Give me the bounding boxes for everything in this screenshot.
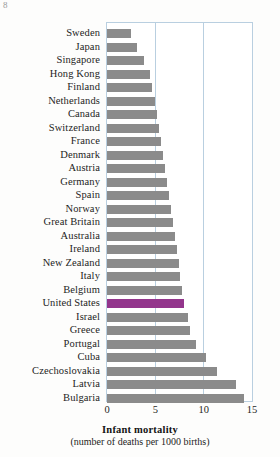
category-label: Denmark	[60, 148, 100, 162]
x-tick-label: 0	[104, 404, 109, 415]
category-label: Australia	[61, 229, 100, 243]
x-tick-label: 15	[247, 404, 258, 415]
bar	[107, 232, 175, 241]
bar	[107, 164, 165, 173]
bar	[107, 124, 159, 133]
bar	[107, 205, 171, 214]
bar	[107, 353, 206, 362]
category-label: Norway	[66, 202, 100, 216]
category-label: Great Britain	[44, 215, 100, 229]
bar	[107, 178, 167, 187]
category-label: Latvia	[73, 377, 100, 391]
axis-caption: Infant mortality (number of deaths per 1…	[0, 424, 280, 447]
axis-title: Infant mortality	[0, 424, 280, 435]
bar	[107, 137, 161, 146]
category-label: Sweden	[66, 26, 100, 40]
page-corner-mark: 8	[3, 0, 8, 10]
bar	[107, 272, 180, 281]
bar	[107, 340, 196, 349]
bar	[107, 394, 244, 403]
category-label: Spain	[76, 188, 100, 202]
category-label: Singapore	[57, 53, 100, 67]
category-label: Italy	[80, 269, 100, 283]
bar	[107, 43, 137, 52]
bar	[107, 299, 184, 308]
category-label: United States	[42, 296, 100, 310]
gridline-10	[203, 23, 204, 401]
category-label: Switzerland	[49, 121, 100, 135]
bar	[107, 97, 155, 106]
bar	[107, 83, 152, 92]
category-label: Cuba	[77, 350, 100, 364]
bar	[107, 326, 190, 335]
bar	[107, 313, 188, 322]
category-label: Germany	[60, 175, 100, 189]
plot-block: SwedenJapanSingaporeHong KongFinlandNeth…	[0, 22, 280, 402]
category-label: Czechoslovakia	[32, 364, 100, 378]
bar	[107, 367, 217, 376]
category-label: Japan	[76, 40, 100, 54]
x-tick-label: 5	[153, 404, 158, 415]
category-label: Finland	[67, 80, 100, 94]
axis-subtitle: (number of deaths per 1000 births)	[0, 436, 280, 447]
x-tick-label: 10	[198, 404, 209, 415]
bar	[107, 56, 144, 65]
bar	[107, 29, 131, 38]
bar	[107, 110, 157, 119]
bar	[107, 245, 177, 254]
category-label: Portugal	[64, 337, 100, 351]
bar	[107, 151, 163, 160]
category-label: Ireland	[70, 242, 100, 256]
category-label: New Zealand	[43, 256, 100, 270]
bar	[107, 286, 182, 295]
category-label: Austria	[68, 161, 100, 175]
category-label: Belgium	[63, 283, 100, 297]
bar	[107, 70, 150, 79]
category-label: Israel	[76, 310, 100, 324]
category-label: Hong Kong	[50, 67, 100, 81]
bar	[107, 259, 179, 268]
category-label: France	[71, 134, 100, 148]
category-label: Netherlands	[48, 94, 100, 108]
x-axis-tick-labels: 051015	[0, 404, 280, 420]
category-label: Bulgaria	[63, 391, 100, 405]
infant-mortality-bar-chart: 8 SwedenJapanSingaporeHong KongFinlandNe…	[0, 0, 280, 457]
category-label: Greece	[70, 323, 100, 337]
bar	[107, 380, 236, 389]
plot-area	[106, 22, 253, 402]
category-axis-labels: SwedenJapanSingaporeHong KongFinlandNeth…	[0, 22, 104, 402]
bar	[107, 218, 173, 227]
category-label: Canada	[68, 107, 100, 121]
bar	[107, 191, 169, 200]
